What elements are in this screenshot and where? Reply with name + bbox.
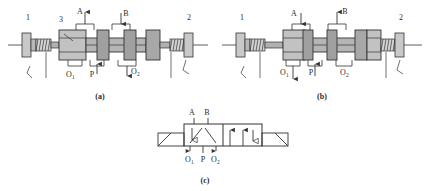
right-stem-a [160, 42, 170, 48]
label-port-O1-a: O 1 [66, 70, 75, 80]
left-actuator-box-c [158, 133, 184, 146]
channel-B-a [112, 24, 130, 30]
left-stem-b [265, 42, 283, 48]
label-port-P-a: P [90, 70, 95, 79]
spool-land-1-a [97, 30, 109, 60]
label-port-O2-b: O 2 [340, 68, 349, 78]
callout-1-b: 1 [240, 13, 244, 22]
leader-item1-a [27, 66, 32, 78]
figure-canvas: 1 3 2 A B O 1 P O 2 (a) [0, 0, 429, 191]
channel-O2-b [336, 60, 352, 66]
svg-text:2: 2 [217, 159, 220, 165]
label-port-O1-b: O 1 [280, 68, 289, 78]
housing-right-block-b [367, 30, 381, 60]
label-port-A-c: A [189, 108, 195, 117]
svg-text:2: 2 [346, 72, 349, 78]
channel-O1-b [286, 60, 300, 66]
label-port-P-c: P [201, 155, 206, 164]
caption-c: (c) [201, 176, 210, 185]
right-actuator-box-c [262, 133, 288, 146]
svg-text:1: 1 [191, 159, 194, 165]
spool-land-3-a [146, 30, 160, 60]
label-port-O2-c: O 2 [211, 155, 220, 165]
housing-left-block-b [283, 30, 305, 60]
flow-path-diag-2-c [205, 128, 216, 143]
housing-left-block-a [59, 30, 86, 60]
svg-text:1: 1 [286, 72, 289, 78]
leader-item1-b [241, 66, 246, 78]
svg-text:1: 1 [72, 74, 75, 80]
label-port-P-b: P [309, 68, 314, 77]
panel-b: 1 2 A B O 1 P O 2 (b) [222, 7, 422, 101]
label-port-A-b: A [291, 9, 297, 18]
leader-item2-b [397, 60, 403, 74]
label-port-A-a: A [77, 7, 83, 16]
callout-2-a: 2 [187, 13, 191, 22]
spool-land-2-b [327, 30, 337, 60]
channel-O1-a [68, 60, 82, 66]
right-actuator-diagonal-c [275, 133, 288, 146]
left-collar-b [245, 39, 250, 51]
callout-3-a: 3 [59, 15, 63, 24]
left-end-cap-a [22, 33, 31, 57]
channel-B-b [328, 24, 346, 30]
label-port-O1-c: O 1 [185, 155, 194, 165]
svg-text:2: 2 [137, 71, 140, 77]
left-collar-a [31, 39, 36, 51]
right-end-cap-b [395, 33, 404, 57]
label-port-O2-a: O 2 [131, 67, 140, 77]
caption-b: (b) [317, 92, 327, 101]
panel-a: 1 3 2 A B O 1 P O 2 (a) [8, 7, 208, 101]
left-stem-a [51, 42, 59, 48]
callout-2-b: 2 [399, 13, 403, 22]
panel-c: A B O 1 P O 2 (c) [158, 108, 288, 185]
left-end-cap-b [236, 33, 245, 57]
callout-1-a: 1 [26, 13, 30, 22]
right-end-cap-a [184, 33, 193, 57]
spool-land-2-a [124, 30, 136, 60]
spool-land-3-b [355, 30, 367, 60]
caption-a: (a) [95, 92, 105, 101]
spool-land-1-b [303, 30, 313, 60]
leader-item2-a [183, 60, 189, 74]
left-actuator-diagonal-c [158, 133, 171, 146]
technical-diagram: 1 3 2 A B O 1 P O 2 (a) [0, 0, 429, 191]
channel-A-b [292, 24, 310, 30]
label-port-B-b: B [342, 7, 347, 16]
label-port-B-c: B [204, 108, 209, 117]
label-port-B-a: B [123, 9, 128, 18]
channel-A-a [76, 24, 94, 30]
channel-O2-a [118, 60, 136, 66]
